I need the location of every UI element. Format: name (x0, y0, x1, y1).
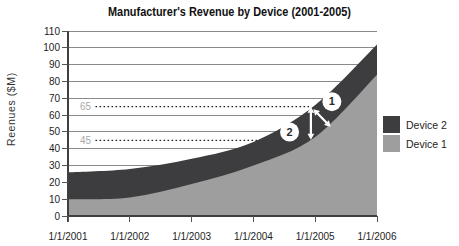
x-tick-label: 1/1/2006 (358, 231, 397, 242)
x-tick-label: 1/1/2001 (49, 231, 88, 242)
y-tick-label: 80 (49, 76, 61, 87)
legend: Device 2 Device 1 (383, 116, 447, 154)
callout-number-1: 1 (329, 95, 335, 107)
y-tick-label: 50 (49, 126, 61, 137)
y-tick-label: 0 (54, 211, 60, 222)
device-2-swatch-icon (383, 116, 400, 133)
legend-label-device-2: Device 2 (406, 119, 447, 131)
x-tick-label: 1/1/2005 (296, 231, 335, 242)
y-tick-label: 90 (49, 59, 61, 70)
x-tick-label: 1/1/2003 (172, 231, 211, 242)
callout-number-2: 2 (286, 126, 292, 138)
y-tick-label: 40 (49, 143, 61, 154)
revenue-chart: Manufacturer's Revenue by Device (2001-2… (0, 0, 459, 246)
reference-line-label-45: 45 (80, 135, 92, 146)
device-1-swatch-icon (383, 135, 400, 152)
legend-item-device-2: Device 2 (383, 116, 447, 133)
x-tick-label: 1/1/2002 (110, 231, 149, 242)
y-tick-label: 110 (44, 26, 60, 37)
legend-label-device-1: Device 1 (406, 138, 447, 150)
y-tick-label: 30 (49, 160, 61, 171)
y-tick-label: 10 (49, 194, 61, 205)
reference-line-label-65: 65 (80, 101, 92, 112)
y-tick-label: 60 (49, 110, 61, 121)
y-tick-label: 70 (49, 93, 61, 104)
y-tick-label: 20 (49, 177, 61, 188)
legend-item-device-1: Device 1 (383, 135, 447, 152)
x-tick-label: 1/1/2004 (234, 231, 273, 242)
y-tick-label: 100 (43, 42, 60, 53)
